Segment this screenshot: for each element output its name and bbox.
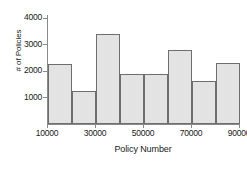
y-axis-tick-mark <box>43 71 48 72</box>
y-axis-tick-label: 3000 <box>24 40 42 49</box>
x-axis-title: Policy Number <box>47 144 239 154</box>
bar <box>48 64 72 124</box>
x-axis-tick-labels: 1000030000500007000090000 <box>47 128 239 142</box>
histogram-chart: # of Policies 1000200030004000 100003000… <box>0 0 247 169</box>
y-axis-tick-labels: 1000200030004000 <box>0 0 44 169</box>
x-axis-tick-label: 90000 <box>228 128 247 138</box>
x-axis-tick-label: 70000 <box>180 128 203 138</box>
y-axis-tick-mark <box>43 97 48 98</box>
y-axis-tick-mark <box>43 44 48 45</box>
bar <box>192 81 216 124</box>
bar <box>216 63 240 124</box>
x-axis-tick-label: 30000 <box>84 128 107 138</box>
bar <box>168 50 192 124</box>
bar <box>120 74 144 124</box>
y-axis-tick-label: 4000 <box>24 13 42 22</box>
y-axis-tick-label: 1000 <box>24 93 42 102</box>
bar-series <box>48 10 239 125</box>
plot-area <box>47 10 239 125</box>
y-axis-tick-mark <box>43 18 48 19</box>
bar <box>72 91 96 124</box>
x-axis-tick-label: 50000 <box>132 128 155 138</box>
y-axis-tick-label: 2000 <box>24 66 42 75</box>
bar <box>144 74 168 124</box>
x-axis-tick-label: 10000 <box>36 128 59 138</box>
bar <box>96 34 120 124</box>
